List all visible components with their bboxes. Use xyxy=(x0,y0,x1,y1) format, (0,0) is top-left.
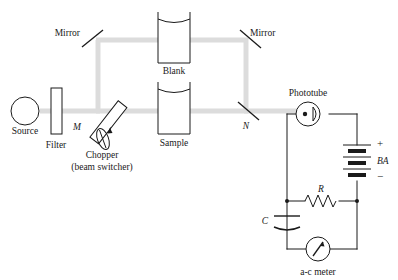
battery-short-plate-2 xyxy=(348,161,366,165)
cuvette-sample: Sample xyxy=(158,82,190,148)
capacitor: C xyxy=(262,216,300,230)
mirror-right-label: Mirror xyxy=(250,28,276,38)
battery-short-plate-3 xyxy=(348,173,366,177)
phototube-label: Phototube xyxy=(289,88,328,98)
spectrophotometer-diagram: Source Filter M Chopper (beam switcher) … xyxy=(0,0,398,280)
resistor-label: R xyxy=(317,184,324,194)
battery-label: BA xyxy=(377,156,389,166)
source-lamp-icon xyxy=(11,97,39,125)
ac-meter-label: a-c meter xyxy=(300,267,336,277)
sample-label: Sample xyxy=(160,138,189,148)
ac-meter: a-c meter xyxy=(300,237,336,277)
chopper-label: Chopper xyxy=(86,150,120,160)
chopper-sublabel: (beam switcher) xyxy=(71,162,132,173)
filter-label: Filter xyxy=(46,140,67,150)
cuvette-blank-icon xyxy=(158,12,190,63)
capacitor-label: C xyxy=(262,216,269,226)
junction-dot-left xyxy=(285,199,289,203)
battery-minus-label: − xyxy=(377,170,383,182)
blank-label: Blank xyxy=(163,66,186,76)
mirror-left-label: Mirror xyxy=(55,28,81,38)
cuvette-sample-icon xyxy=(158,82,190,134)
chopper-letter-label: M xyxy=(72,122,82,132)
node-n-label: N xyxy=(242,121,250,131)
resistor-icon xyxy=(305,195,336,207)
resistor: R xyxy=(305,184,336,207)
battery-plus-label: + xyxy=(377,137,383,149)
phototube: Phototube xyxy=(289,88,328,126)
phototube-anode xyxy=(303,112,307,116)
source-label: Source xyxy=(12,126,38,136)
battery-short-plate-1 xyxy=(348,149,366,153)
cuvette-blank: Blank xyxy=(158,12,190,76)
filter-plate-icon xyxy=(51,88,62,134)
battery: + BA − xyxy=(343,137,389,182)
junction-dot-right xyxy=(355,199,359,203)
